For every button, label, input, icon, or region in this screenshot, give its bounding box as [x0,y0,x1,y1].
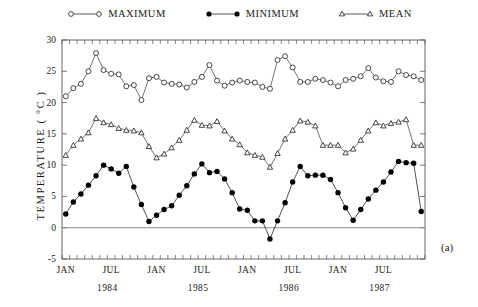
data-point [169,81,174,86]
data-point [252,218,257,223]
data-point [313,76,318,81]
data-point [388,169,393,174]
data-point [267,236,272,241]
x-tick-label: JUL [91,265,131,275]
data-point [245,207,250,212]
data-point [396,159,401,164]
data-point [320,172,325,177]
data-point [222,176,227,181]
x-group-label: 1984 [77,283,137,293]
data-point [260,84,265,89]
data-point [351,76,356,81]
data-point [411,161,416,166]
y-tick-label: -5 [30,254,56,264]
y-tick-label: 5 [30,191,56,201]
data-point [86,69,91,74]
data-point [229,190,234,195]
data-point [116,72,121,77]
y-tick-label: 25 [30,66,56,76]
data-point [343,205,348,210]
data-point [124,84,129,89]
data-point [214,169,219,174]
data-point [161,207,166,212]
data-point [192,79,197,84]
data-point [101,162,106,167]
x-tick-label: JUL [363,265,403,275]
x-tick-label: JAN [318,265,358,275]
data-point [381,79,386,84]
data-point [116,126,121,131]
x-tick-label: JUL [182,265,222,275]
data-point [169,203,174,208]
data-point [237,206,242,211]
data-point [131,83,136,88]
data-point [260,218,265,223]
data-point [71,199,76,204]
data-point [154,74,159,79]
data-point [298,79,303,84]
data-point [275,218,280,223]
data-point [177,192,182,197]
data-point [373,120,378,125]
data-point [101,120,106,125]
data-point [283,54,288,59]
data-point [358,207,363,212]
series-mean [63,116,424,170]
data-point [146,219,151,224]
data-point [275,151,280,156]
data-point [366,196,371,201]
data-point [184,85,189,90]
y-tick-label: 30 [30,35,56,45]
data-point [404,73,409,78]
data-point [222,83,227,88]
data-point [162,80,167,85]
data-point [63,211,68,216]
data-point [146,144,151,149]
data-point [101,68,106,73]
data-point [237,142,242,147]
data-point [215,78,220,83]
x-tick-label: JAN [46,265,86,275]
data-point [366,66,371,71]
x-group-label: 1985 [168,283,228,293]
data-point [230,80,235,85]
data-point [328,177,333,182]
data-point [336,84,341,89]
data-point [388,79,393,84]
data-point [146,76,151,81]
data-point [199,122,204,127]
data-point [78,191,83,196]
data-point [335,190,340,195]
data-point [78,81,83,86]
y-tick-label: 0 [30,223,56,233]
data-point [373,75,378,80]
data-point [381,179,386,184]
y-tick-label: 10 [30,160,56,170]
data-point [290,179,295,184]
data-point [86,130,91,135]
data-point [139,98,144,103]
data-point [199,74,204,79]
data-point [267,86,272,91]
data-point [403,160,408,165]
data-point [403,117,408,122]
data-point [313,172,318,177]
data-point [71,86,76,91]
data-point [192,117,197,122]
data-point [411,74,416,79]
chart-page: MAXIMUM MINIMUM MEAN TEMPERATURE ( °C ) … [0,0,478,307]
data-point [245,79,250,84]
data-point [282,200,287,205]
x-tick-label: JAN [137,265,177,275]
data-point [116,171,121,176]
data-point [184,183,189,188]
y-tick-label: 20 [30,98,56,108]
data-point [177,82,182,87]
data-point [328,80,333,85]
x-group-label: 1986 [259,283,319,293]
data-point [154,213,159,218]
x-tick-label: JUL [273,265,313,275]
data-point [373,187,378,192]
data-point [320,78,325,83]
x-group-label: 1987 [350,283,410,293]
